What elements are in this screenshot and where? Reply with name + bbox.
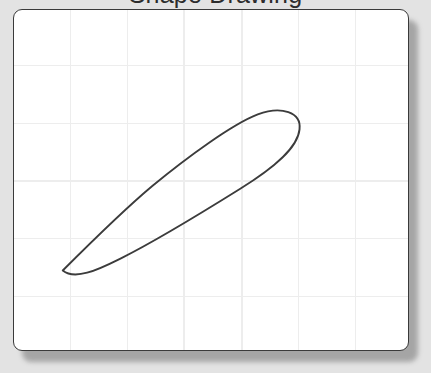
drawn-shape-outline[interactable] bbox=[63, 110, 300, 274]
canvas-inner bbox=[14, 10, 408, 350]
app-stage: Shape Drawing bbox=[0, 0, 431, 373]
page-title: Shape Drawing bbox=[0, 0, 431, 8]
drawing-canvas-card[interactable] bbox=[13, 9, 409, 351]
drawn-shape-layer[interactable] bbox=[14, 10, 408, 350]
